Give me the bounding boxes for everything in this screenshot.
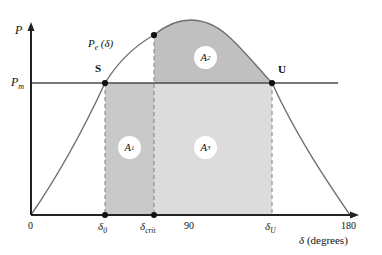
point-marker-crit bbox=[151, 32, 157, 38]
pm-axis-label: Pm bbox=[11, 76, 24, 91]
x-tick-delta-crit: δcrit bbox=[140, 221, 156, 235]
point-label-u: U bbox=[278, 64, 286, 75]
area-label-a3: A3 bbox=[194, 136, 217, 159]
y-axis-label: P bbox=[15, 24, 22, 36]
a3-subscript: 3 bbox=[207, 144, 211, 152]
tick-dot-delta-crit bbox=[151, 212, 157, 218]
x-tick-one-eighty: 180 bbox=[341, 221, 356, 231]
pe-symbol: P bbox=[88, 37, 95, 49]
deltau-subscript: U bbox=[270, 226, 275, 235]
x-axis-arrowhead bbox=[350, 212, 359, 219]
plot-canvas bbox=[0, 0, 382, 255]
pe-argument: (δ) bbox=[101, 37, 113, 49]
delta0-subscript: 0 bbox=[103, 226, 107, 235]
x-axis-title: δ (degrees) bbox=[299, 235, 348, 246]
x-tick-delta-u: δU bbox=[265, 221, 276, 235]
x-tick-ninety: 90 bbox=[184, 221, 194, 231]
point-marker-u bbox=[269, 80, 275, 86]
x-axis-delta-symbol: δ bbox=[299, 234, 304, 246]
area-label-a2: A2 bbox=[194, 46, 217, 69]
x-tick-origin: 0 bbox=[28, 221, 33, 231]
y-axis-arrowhead bbox=[28, 22, 35, 31]
a1-subscript: 1 bbox=[131, 144, 135, 152]
pe-curve-label: Pe (δ) bbox=[88, 38, 113, 52]
point-label-s: S bbox=[95, 63, 101, 74]
deltacrit-subscript: crit bbox=[145, 226, 155, 235]
x-axis-units: (degrees) bbox=[307, 234, 348, 246]
point-marker-s bbox=[102, 80, 108, 86]
pm-subscript: m bbox=[18, 82, 24, 91]
tick-dot-delta0 bbox=[102, 212, 108, 218]
a2-subscript: 2 bbox=[207, 54, 211, 62]
x-tick-delta-0: δ0 bbox=[98, 221, 107, 235]
pe-subscript: e bbox=[95, 43, 98, 52]
power-angle-diagram: P Pm 0 δ0 δcrit 90 δU 180 δ (degrees) Pe… bbox=[0, 0, 382, 255]
area-label-a1: A1 bbox=[118, 136, 141, 159]
